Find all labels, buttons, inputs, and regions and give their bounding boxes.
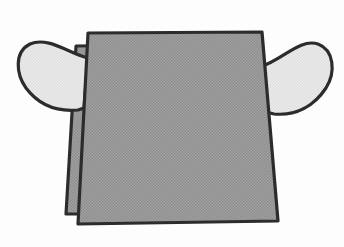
garment-illustration — [0, 0, 344, 247]
front-panel — [78, 32, 278, 224]
illustration-canvas — [0, 0, 344, 247]
